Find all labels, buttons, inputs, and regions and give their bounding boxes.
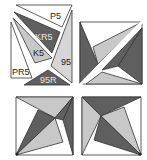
label-p5: P5 — [50, 11, 61, 21]
assembled-square-top-right — [79, 21, 143, 86]
puzzle-diagram: P5 KR5 K5 95 PR5 95R — [0, 0, 147, 160]
label-pr5: PR5 — [12, 67, 30, 77]
label-95r: 95R — [40, 75, 57, 85]
assembled-square-bottom-right — [82, 97, 142, 156]
label-kr5: KR5 — [35, 32, 53, 42]
label-95: 95 — [61, 57, 71, 67]
assembled-square-bottom-left — [16, 97, 74, 156]
label-k5: K5 — [33, 48, 44, 58]
